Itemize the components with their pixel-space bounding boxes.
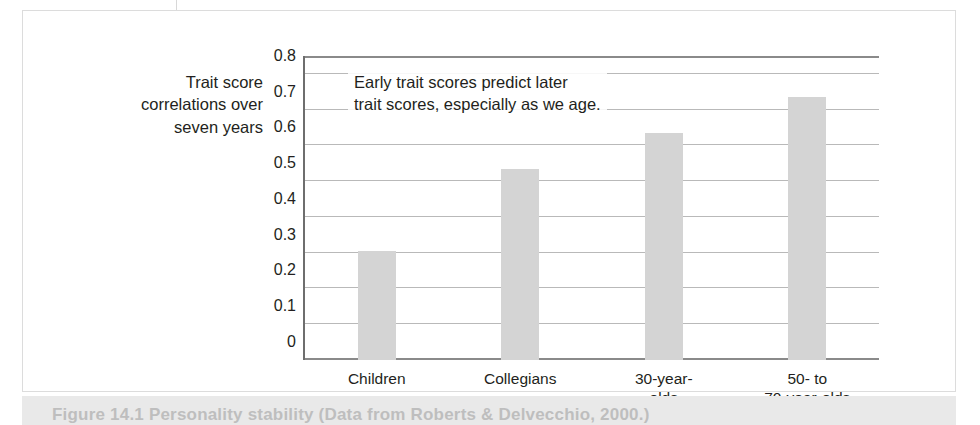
figure-frame: Trait score correlations over seven year… [22, 10, 956, 392]
figure-caption-band: Figure 14.1 Personality stability (Data … [22, 396, 956, 425]
chart-annotation-line-2: trait scores, especially as we age. [354, 94, 601, 116]
bar-slot: 30-year-olds [592, 56, 736, 360]
bar-collegians [501, 169, 539, 360]
y-tick-0.1: 0.1 [274, 297, 296, 315]
y-tick-0.3: 0.3 [274, 226, 296, 244]
chart-annotation: Early trait scores predict later trait s… [348, 70, 607, 118]
chart-annotation-line-1: Early trait scores predict later [354, 72, 601, 94]
bar-children [358, 251, 396, 360]
y-tick-0.8: 0.8 [274, 47, 296, 65]
y-tick-0.5: 0.5 [274, 154, 296, 172]
y-tick-0.6: 0.6 [274, 118, 296, 136]
y-tick-0: 0 [287, 333, 296, 351]
figure-caption: Figure 14.1 Personality stability (Data … [52, 405, 650, 425]
plot-area: 00.10.20.30.40.50.60.70.8 Children Colle… [303, 56, 879, 360]
y-axis-title-line-2: correlations over [93, 93, 263, 115]
x-axis-label-children: Children [348, 369, 406, 388]
bar-chart: 00.10.20.30.40.50.60.70.8 Children Colle… [303, 56, 879, 360]
bar-50-to-70-year-olds [788, 97, 826, 360]
y-axis-title-line-3: seven years [93, 116, 263, 138]
y-axis-title-line-1: Trait score [93, 71, 263, 93]
y-tick-0.2: 0.2 [274, 261, 296, 279]
x-axis-label-collegians: Collegians [484, 369, 556, 388]
y-tick-0.4: 0.4 [274, 190, 296, 208]
bar-30-year-olds [645, 133, 683, 360]
bar-slot: 50- to70-year-olds [736, 56, 880, 360]
y-tick-0.7: 0.7 [274, 83, 296, 101]
y-axis-title: Trait score correlations over seven year… [93, 71, 263, 138]
